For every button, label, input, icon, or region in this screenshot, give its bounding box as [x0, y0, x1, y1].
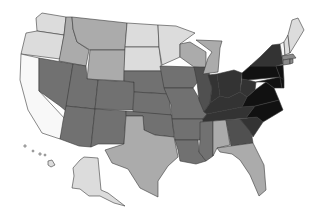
state-me: [288, 18, 304, 53]
state-sd: [124, 47, 162, 71]
state-nm: [91, 109, 126, 147]
state-hi: [48, 160, 55, 167]
state-fl: [217, 143, 266, 196]
hawaii-islet: [24, 145, 26, 147]
state-ia: [160, 66, 199, 88]
hawaii-islets: [24, 145, 46, 156]
state-nd: [125, 23, 159, 47]
state-layer: [20, 13, 304, 206]
state-ct: [283, 59, 290, 65]
state-ar: [172, 119, 203, 140]
state-ks: [133, 92, 171, 115]
hawaii-islet: [39, 153, 41, 155]
us-choropleth-map: [0, 0, 320, 219]
state-wy: [87, 50, 125, 81]
hawaii-islet: [44, 154, 46, 156]
state-ms: [199, 121, 213, 161]
state-ri: [290, 59, 293, 64]
state-az: [60, 106, 95, 147]
state-or: [21, 31, 64, 59]
hawaii-islet: [32, 150, 34, 152]
state-ny: [250, 44, 283, 66]
state-co: [95, 80, 134, 110]
state-wi: [180, 42, 206, 68]
